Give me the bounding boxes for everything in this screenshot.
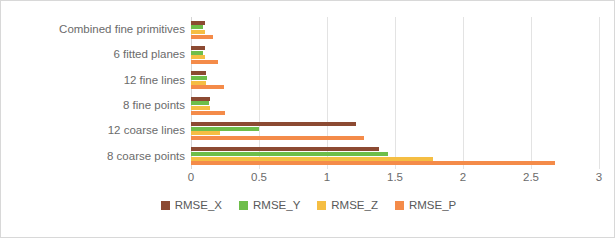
bar-RMSE_Z [191, 157, 433, 161]
bar-RMSE_X [191, 147, 379, 151]
bar-RMSE_Y [191, 51, 203, 55]
bar-RMSE_Y [191, 101, 209, 105]
x-axis-tick-label: 1 [324, 171, 330, 183]
legend-swatch-icon [239, 201, 248, 210]
legend-swatch-icon [317, 201, 326, 210]
chart-legend: RMSE_XRMSE_YRMSE_ZRMSE_P [1, 199, 615, 211]
legend-label: RMSE_Z [331, 199, 378, 211]
y-axis-label: 8 fine points [9, 93, 185, 118]
bar-RMSE_Y [191, 76, 207, 80]
bar-RMSE_X [191, 97, 210, 101]
plot-area [191, 17, 599, 169]
chart-container: Combined fine primitives6 fitted planes1… [0, 0, 615, 238]
x-axis-tick-label: 0 [188, 171, 194, 183]
x-axis-tick-label: 1.5 [387, 171, 403, 183]
bar-RMSE_P [191, 85, 224, 89]
y-axis-category-labels: Combined fine primitives6 fitted planes1… [9, 17, 185, 169]
bar-RMSE_X [191, 71, 206, 75]
gridline-3 [599, 17, 600, 169]
legend-label: RMSE_Y [253, 199, 300, 211]
x-axis-tick-label: 2 [460, 171, 466, 183]
legend-item-RMSE_Y[interactable]: RMSE_Y [239, 199, 300, 211]
bar-group [191, 42, 599, 67]
bar-RMSE_P [191, 111, 225, 115]
bar-RMSE_Z [191, 55, 205, 59]
bar-RMSE_X [191, 21, 205, 25]
legend-item-RMSE_X[interactable]: RMSE_X [161, 199, 222, 211]
bar-group [191, 118, 599, 143]
y-axis-label: 8 coarse points [9, 144, 185, 169]
bar-RMSE_Y [191, 152, 388, 156]
x-axis-tick-labels: 00.511.522.53 [191, 171, 599, 189]
y-axis-label: 12 fine lines [9, 68, 185, 93]
y-axis-label: 12 coarse lines [9, 118, 185, 143]
bar-group [191, 68, 599, 93]
legend-item-RMSE_P[interactable]: RMSE_P [395, 199, 456, 211]
x-axis-tick-label: 0.5 [251, 171, 267, 183]
bar-group [191, 17, 599, 42]
x-axis-tick-label: 2.5 [523, 171, 539, 183]
bar-group [191, 93, 599, 118]
x-axis-tick-label: 3 [596, 171, 602, 183]
bar-group [191, 144, 599, 169]
bar-RMSE_Z [191, 106, 210, 110]
legend-item-RMSE_Z[interactable]: RMSE_Z [317, 199, 378, 211]
legend-swatch-icon [161, 201, 170, 210]
bar-RMSE_Y [191, 25, 203, 29]
y-axis-label: 6 fitted planes [9, 42, 185, 67]
legend-label: RMSE_P [409, 199, 456, 211]
bar-RMSE_P [191, 161, 555, 165]
bar-RMSE_P [191, 136, 364, 140]
legend-swatch-icon [395, 201, 404, 210]
legend-label: RMSE_X [175, 199, 222, 211]
y-axis-label: Combined fine primitives [9, 17, 185, 42]
bar-RMSE_Z [191, 81, 206, 85]
bar-RMSE_X [191, 122, 356, 126]
bar-RMSE_X [191, 46, 205, 50]
bar-RMSE_Z [191, 30, 205, 34]
bar-RMSE_Z [191, 131, 220, 135]
bar-RMSE_P [191, 35, 213, 39]
bar-RMSE_Y [191, 127, 259, 131]
bar-RMSE_P [191, 60, 218, 64]
